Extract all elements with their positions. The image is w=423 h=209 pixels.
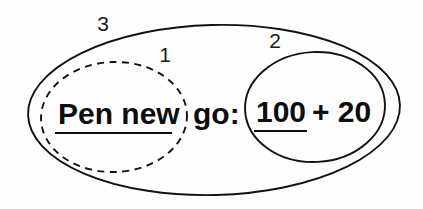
expression-text-pen-new: Pen new <box>58 97 180 130</box>
region-2-label: 2 <box>269 29 281 52</box>
diagram-canvas: 3 1 2 Pen new go: 100 + 20 <box>0 0 423 209</box>
ellipse-annotation-diagram: 3 1 2 Pen new go: 100 + 20 <box>0 0 423 209</box>
expression-text-100: 100 <box>256 95 306 128</box>
region-3-label: 3 <box>97 12 109 35</box>
expression-text-go: go: <box>193 97 240 130</box>
region-1-label: 1 <box>159 43 171 66</box>
expression-text-plus-20: + 20 <box>312 95 371 128</box>
